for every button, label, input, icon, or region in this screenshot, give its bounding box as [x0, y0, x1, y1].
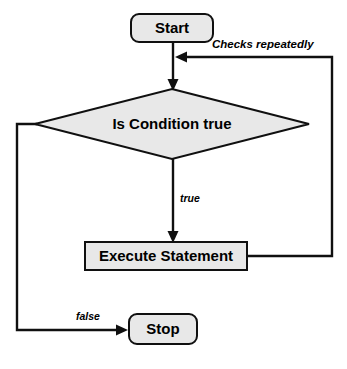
- node-execute-statement[interactable]: Execute Statement: [85, 242, 247, 270]
- edge-label-false: false: [76, 310, 100, 322]
- flowchart-diagram: Start Is Condition true Execute Statemen…: [0, 0, 347, 369]
- execute-statement-label: Execute Statement: [99, 247, 233, 264]
- connector-line: [181, 57, 332, 256]
- edge-label-true: true: [180, 192, 200, 204]
- node-stop[interactable]: Stop: [129, 314, 197, 344]
- start-label: Start: [155, 19, 189, 36]
- node-condition[interactable]: Is Condition true: [35, 89, 309, 159]
- connector-false-branch: [17, 124, 128, 336]
- condition-label: Is Condition true: [112, 115, 231, 132]
- flowchart-canvas: Start Is Condition true Execute Statemen…: [0, 0, 347, 369]
- arrowhead-right-icon: [116, 325, 128, 336]
- stop-label: Stop: [146, 320, 179, 337]
- connector-loop-back: [175, 52, 332, 257]
- connector-line: [17, 124, 122, 330]
- edge-label-checks-repeatedly: Checks repeatedly: [212, 38, 314, 50]
- node-start[interactable]: Start: [131, 14, 213, 42]
- connector-true-branch: [168, 159, 179, 243]
- arrowhead-left-icon: [175, 52, 187, 63]
- connector-start-to-condition: [168, 42, 179, 91]
